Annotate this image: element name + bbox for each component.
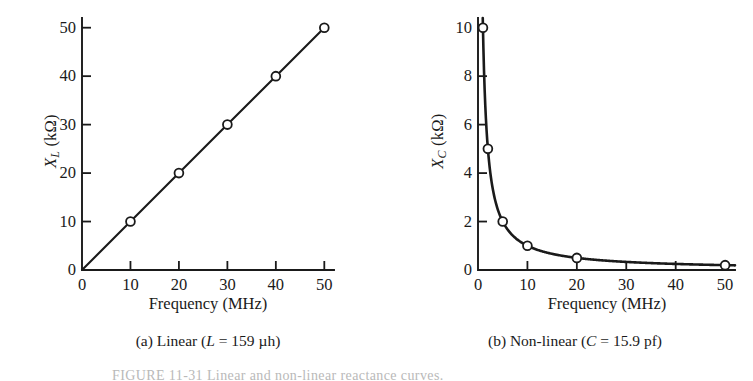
x-axis-tick-label: 30 [207, 277, 247, 294]
data-point-marker[interactable] [572, 253, 581, 262]
figure-caption: FIGURE 11-31 Linear and non-linear react… [112, 368, 444, 381]
data-point-marker[interactable] [126, 217, 135, 226]
x-axis-tick-label: 40 [256, 277, 296, 294]
data-point-marker[interactable] [320, 23, 329, 32]
data-series-line [483, 18, 735, 265]
subcaption-prefix: (b) Non-linear ( [488, 332, 586, 349]
x-axis-tick-label: 20 [159, 277, 199, 294]
x-axis-tick-label: 0 [62, 277, 102, 294]
x-axis-tick-label: 0 [458, 277, 498, 294]
subcaption-middle: = 159 µh) [215, 332, 280, 349]
chart-b-subcaption: (b) Non-linear (C = 15.9 pf) [397, 332, 753, 350]
x-axis-tick-label: 30 [606, 277, 646, 294]
subcaption-symbol: L [206, 332, 215, 349]
axis-lines [478, 18, 735, 270]
data-series-line [82, 28, 324, 270]
data-point-marker[interactable] [223, 120, 232, 129]
subcaption-symbol: C [586, 332, 596, 349]
y-axis-tick-label: 10 [34, 214, 76, 231]
data-point-marker[interactable] [498, 217, 507, 226]
data-point-marker[interactable] [483, 144, 492, 153]
y-axis-subscript: C [435, 150, 449, 158]
x-axis-tick-label: 20 [557, 277, 597, 294]
chart-panel-a: XL (kΩ) Frequency (MHz) (a) Linear (L = … [0, 0, 376, 381]
y-axis-tick-label: 30 [34, 117, 76, 134]
chart-a-subcaption: (a) Linear (L = 159 µh) [30, 332, 386, 350]
y-axis-subscript: L [48, 151, 62, 158]
data-point-marker[interactable] [523, 241, 532, 250]
subcaption-prefix: (a) Linear ( [136, 332, 207, 349]
y-axis-tick-label: 40 [34, 68, 76, 85]
y-axis-tick-label: 8 [430, 68, 472, 85]
y-axis-tick-label: 10 [430, 20, 472, 37]
chart-b-x-axis-label: Frequency (MHz) [478, 294, 736, 314]
chart-a-x-axis-label: Frequency (MHz) [82, 294, 334, 314]
y-axis-tick-label: 2 [430, 214, 472, 231]
x-axis-tick-label: 50 [705, 277, 745, 294]
x-axis-tick-label: 10 [507, 277, 547, 294]
data-point-marker[interactable] [271, 72, 280, 81]
y-axis-tick-label: 4 [430, 165, 472, 182]
chart-panel-b: XC (kΩ) Frequency (MHz) (b) Non-linear (… [377, 0, 753, 381]
data-point-marker[interactable] [479, 23, 488, 32]
data-point-marker[interactable] [721, 261, 730, 270]
x-axis-tick-label: 40 [656, 277, 696, 294]
y-axis-tick-label: 50 [34, 20, 76, 37]
x-axis-tick-label: 50 [304, 277, 344, 294]
y-axis-tick-label: 20 [34, 165, 76, 182]
figure-root: XL (kΩ) Frequency (MHz) (a) Linear (L = … [0, 0, 753, 381]
y-axis-tick-label: 6 [430, 117, 472, 134]
subcaption-middle: = 15.9 pf) [596, 332, 662, 349]
x-axis-tick-label: 10 [110, 277, 150, 294]
chart-a-y-axis-label: XL (kΩ) [41, 81, 63, 201]
data-point-marker[interactable] [175, 169, 184, 178]
chart-b-y-axis-label: XC (kΩ) [428, 81, 450, 201]
